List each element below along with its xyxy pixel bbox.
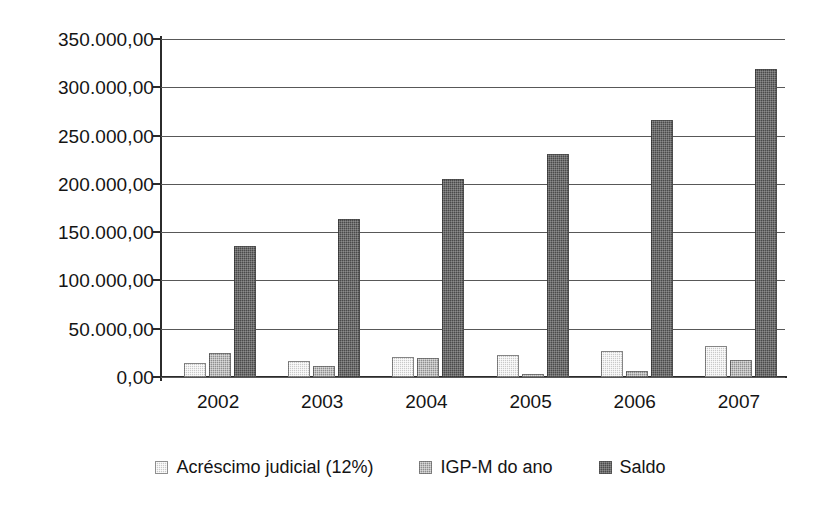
y-axis-tick [153, 38, 161, 40]
y-axis-tick [153, 231, 161, 233]
y-axis-tick [153, 328, 161, 330]
bar [522, 374, 544, 377]
bar [730, 360, 752, 377]
legend-label: Acréscimo judicial (12%) [176, 458, 373, 476]
y-axis-tick-label: 0,00 [4, 368, 154, 387]
y-axis-tick [153, 183, 161, 185]
y-axis-tick [153, 376, 161, 378]
legend-swatch-icon [419, 461, 432, 474]
y-axis-tick-label: 350.000,00 [4, 30, 154, 49]
bar [392, 357, 414, 377]
bar [601, 351, 623, 377]
legend-label: IGP-M do ano [440, 458, 552, 476]
x-axis-tick-label: 2004 [366, 392, 486, 411]
x-axis-tick-label: 2007 [679, 392, 799, 411]
bar [184, 363, 206, 377]
x-axis-tick-label: 2005 [471, 392, 591, 411]
bar [626, 371, 648, 377]
chart-legend: Acréscimo judicial (12%)IGP-M do anoSald… [0, 458, 821, 476]
bar [755, 69, 777, 377]
bar [313, 366, 335, 377]
y-axis-tick [153, 279, 161, 281]
bar-chart: 200220032004200520062007 Acréscimo judic… [0, 0, 821, 507]
y-axis-tick-label: 300.000,00 [4, 78, 154, 97]
legend-item[interactable]: Saldo [599, 458, 666, 476]
bar-group [370, 39, 474, 377]
bar-group [266, 39, 370, 377]
y-axis-tick [153, 86, 161, 88]
bar [497, 355, 519, 377]
legend-label: Saldo [620, 458, 666, 476]
bar [442, 179, 464, 377]
bar-group [162, 39, 266, 377]
x-axis-tick-label: 2002 [158, 392, 278, 411]
bar [288, 361, 310, 377]
legend-swatch-icon [599, 461, 612, 474]
bar [234, 246, 256, 377]
bar-group [683, 39, 787, 377]
x-axis-tick-label: 2006 [575, 392, 695, 411]
legend-swatch-icon [155, 461, 168, 474]
bar-group [475, 39, 579, 377]
y-axis-tick-label: 50.000,00 [4, 320, 154, 339]
gridline [160, 377, 785, 378]
bar [651, 120, 673, 377]
legend-item[interactable]: Acréscimo judicial (12%) [155, 458, 373, 476]
bar-group [579, 39, 683, 377]
y-axis-tick-label: 150.000,00 [4, 223, 154, 242]
bar [547, 154, 569, 377]
y-axis-tick-label: 250.000,00 [4, 127, 154, 146]
y-axis-tick [153, 135, 161, 137]
bar [209, 353, 231, 377]
x-axis-tick-label: 2003 [262, 392, 382, 411]
bar [705, 346, 727, 377]
bar [417, 358, 439, 377]
y-axis-tick-label: 100.000,00 [4, 271, 154, 290]
legend-item[interactable]: IGP-M do ano [419, 458, 552, 476]
bar [338, 219, 360, 377]
y-axis-tick-label: 200.000,00 [4, 175, 154, 194]
bars-layer [162, 39, 785, 377]
